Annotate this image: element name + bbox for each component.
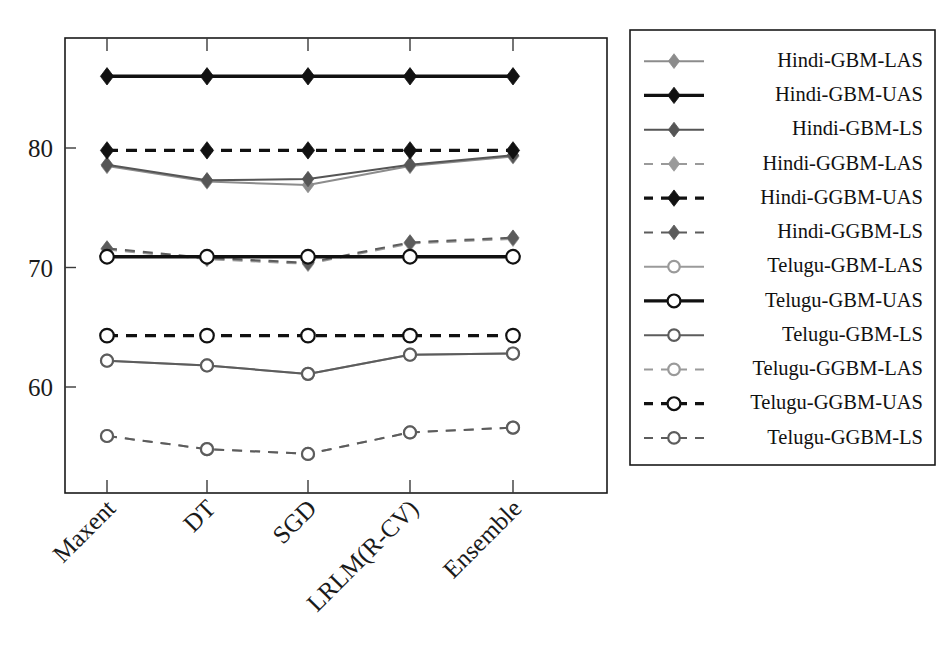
legend-label-telugu-ggbm-las: Telugu-GGBM-LAS — [752, 357, 923, 380]
data-point-marker — [100, 250, 114, 264]
data-point-marker — [200, 329, 214, 343]
data-point-marker — [668, 364, 680, 376]
plot-border — [65, 38, 607, 493]
data-point-marker — [201, 443, 213, 455]
y-tick-label-80: 80 — [28, 135, 53, 162]
data-point-marker — [668, 261, 680, 273]
legend-label-telugu-ggbm-ls: Telugu-GGBM-LS — [767, 426, 923, 449]
data-point-marker — [668, 294, 681, 307]
data-point-marker — [201, 173, 213, 188]
y-tick-label-60: 60 — [28, 374, 53, 401]
x-tick-label-maxent: Maxent — [47, 494, 120, 567]
data-point-marker — [200, 68, 213, 85]
x-tick-label-ensemble: Ensemble — [438, 494, 527, 583]
data-point-marker — [200, 142, 213, 159]
data-point-marker — [403, 329, 417, 343]
y-tick-label-70: 70 — [28, 255, 53, 282]
data-point-marker — [506, 68, 519, 85]
series-hindi-ggbm-uas — [100, 142, 519, 159]
legend-label-hindi-ggbm-uas: Hindi-GGBM-UAS — [760, 186, 923, 208]
legend-label-telugu-gbm-ls: Telugu-GBM-LS — [782, 323, 923, 346]
data-point-marker — [668, 329, 680, 341]
data-point-marker — [302, 448, 314, 460]
data-point-marker — [668, 397, 681, 410]
data-point-marker — [507, 348, 519, 360]
chart-legend: Hindi-GBM-LASHindi-GBM-UASHindi-GBM-LSHi… — [630, 30, 935, 465]
x-tick-label-sgd: SGD — [267, 494, 321, 548]
data-point-marker — [302, 368, 314, 380]
data-point-marker — [403, 68, 416, 85]
plot-frame — [65, 38, 607, 493]
legend-label-hindi-ggbm-ls: Hindi-GGBM-LS — [777, 220, 923, 242]
data-point-marker — [403, 250, 417, 264]
y-axis-ticks — [65, 148, 76, 387]
line-chart: 607080 MaxentDTSGDLRLM(R-CV)Ensemble Hin… — [0, 0, 944, 645]
series-telugu-gbm-uas — [100, 250, 520, 264]
legend-label-telugu-ggbm-uas: Telugu-GGBM-UAS — [750, 391, 923, 414]
series-telugu-gbm-ls — [101, 348, 519, 380]
chart-canvas: 607080 MaxentDTSGDLRLM(R-CV)Ensemble Hin… — [0, 0, 944, 645]
data-point-marker — [301, 142, 314, 159]
data-point-marker — [100, 142, 113, 159]
series-telugu-ggbm-ls — [101, 422, 519, 460]
chart-page: 607080 MaxentDTSGDLRLM(R-CV)Ensemble Hin… — [0, 0, 944, 645]
data-point-marker — [301, 329, 315, 343]
data-point-marker — [301, 68, 314, 85]
legend-label-hindi-gbm-ls: Hindi-GBM-LS — [792, 117, 923, 139]
y-axis-tick-labels: 607080 — [28, 135, 53, 401]
data-point-marker — [404, 235, 416, 250]
data-point-marker — [100, 329, 114, 343]
data-point-marker — [404, 426, 416, 438]
legend-label-hindi-gbm-las: Hindi-GBM-LAS — [777, 49, 923, 71]
series-telugu-ggbm-uas — [100, 329, 520, 343]
x-tick-label-dt: DT — [178, 494, 221, 537]
legend-label-hindi-ggbm-las: Hindi-GGBM-LAS — [762, 152, 923, 174]
legend-label-hindi-gbm-uas: Hindi-GBM-UAS — [775, 83, 923, 105]
data-point-marker — [101, 355, 113, 367]
series-layer — [100, 68, 520, 460]
legend-label-telugu-gbm-las: Telugu-GBM-LAS — [767, 254, 923, 277]
data-point-marker — [404, 349, 416, 361]
data-point-marker — [201, 359, 213, 371]
data-point-marker — [506, 250, 520, 264]
x-axis-tick-labels: MaxentDTSGDLRLM(R-CV)Ensemble — [47, 494, 526, 617]
data-point-marker — [101, 430, 113, 442]
data-point-marker — [506, 329, 520, 343]
series-hindi-gbm-uas — [100, 68, 519, 85]
data-point-marker — [507, 422, 519, 434]
data-point-marker — [200, 250, 214, 264]
data-point-marker — [403, 142, 416, 159]
data-point-marker — [301, 250, 315, 264]
legend-label-telugu-gbm-uas: Telugu-GBM-UAS — [765, 289, 923, 312]
data-point-marker — [507, 230, 519, 245]
data-point-marker — [668, 432, 680, 444]
data-point-marker — [100, 68, 113, 85]
